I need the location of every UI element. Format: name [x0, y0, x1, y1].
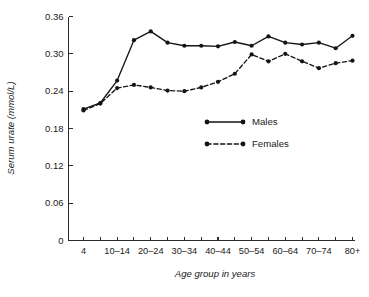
data-point-males: [266, 34, 270, 38]
data-point-males: [233, 40, 237, 44]
data-point-females: [283, 52, 287, 56]
x-axis-tick-label: 40–44: [205, 246, 231, 256]
data-point-males: [165, 41, 169, 45]
y-axis-tick-label: 0.36: [45, 11, 64, 22]
data-point-females: [216, 80, 220, 84]
data-point-females: [334, 61, 338, 65]
x-axis-tick-label: 4: [81, 246, 86, 256]
data-point-males: [334, 46, 338, 50]
legend-label-males: Males: [252, 116, 278, 127]
data-point-females: [317, 66, 321, 70]
data-point-males: [216, 44, 220, 48]
x-axis-tick-label: 50–54: [239, 246, 265, 256]
legend-marker-start: [205, 120, 210, 125]
data-point-females: [132, 83, 136, 87]
legend-marker-end: [241, 142, 246, 147]
chart-plot-area: 00.060.120.180.240.300.36410–1420–2430–3…: [0, 0, 369, 297]
data-point-females: [233, 72, 237, 76]
x-axis-tick-label: 80+: [345, 246, 361, 256]
data-point-females: [115, 86, 119, 90]
x-axis-tick-label: 60–64: [272, 246, 298, 256]
data-point-males: [300, 42, 304, 46]
data-point-males: [350, 34, 354, 38]
y-axis-tick-label: 0.30: [45, 48, 64, 59]
y-axis-tick-label: 0: [58, 235, 63, 246]
data-point-females: [149, 85, 153, 89]
data-point-females: [300, 59, 304, 63]
data-point-males: [132, 38, 136, 42]
data-point-males: [317, 41, 321, 45]
data-point-females: [165, 88, 169, 92]
x-axis-tick-label: 20–24: [138, 246, 164, 256]
legend-label-females: Females: [252, 138, 289, 149]
data-point-males: [182, 44, 186, 48]
y-axis-title: Serum urate (mmol/L): [5, 81, 16, 174]
series-line-males: [84, 31, 353, 109]
y-axis-tick-label: 0.18: [45, 123, 64, 134]
x-axis-tick-label: 70–74: [306, 246, 332, 256]
data-point-females: [199, 85, 203, 89]
data-point-males: [149, 29, 153, 33]
y-axis-tick-label: 0.06: [45, 197, 64, 208]
data-point-females: [250, 52, 254, 56]
data-point-males: [115, 78, 119, 82]
data-point-males: [250, 44, 254, 48]
data-point-females: [182, 89, 186, 93]
legend-marker-end: [241, 120, 246, 125]
y-axis-tick-label: 0.12: [45, 160, 64, 171]
legend-marker-start: [205, 142, 210, 147]
data-point-males: [283, 41, 287, 45]
x-axis-tick-label: 30–34: [172, 246, 198, 256]
serum-urate-line-chart: 00.060.120.180.240.300.36410–1420–2430–3…: [0, 0, 369, 297]
data-point-males: [199, 44, 203, 48]
data-point-females: [350, 59, 354, 63]
y-axis-tick-label: 0.24: [45, 85, 64, 96]
data-point-females: [98, 102, 102, 106]
data-point-females: [266, 59, 270, 63]
x-axis-tick-label: 10–14: [104, 246, 130, 256]
data-point-females: [81, 108, 85, 112]
x-axis-title: Age group in years: [174, 268, 256, 279]
